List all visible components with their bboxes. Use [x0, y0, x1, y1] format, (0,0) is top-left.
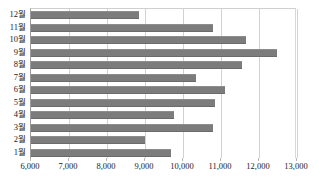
x-axis-tick	[220, 158, 221, 161]
bar-row	[31, 109, 297, 122]
bar-row	[31, 72, 297, 85]
bar	[31, 61, 242, 69]
bar-row	[31, 59, 297, 72]
y-axis-category-label: 5월	[14, 96, 26, 109]
x-axis-tick-label: 10,000	[170, 160, 193, 172]
bar-series	[31, 9, 295, 158]
y-axis-category-label: 8월	[14, 58, 26, 71]
y-axis-category-label: 3월	[14, 121, 26, 134]
x-axis-tick	[144, 158, 145, 161]
bar-row	[31, 134, 297, 147]
bar-row	[31, 22, 297, 35]
bar	[31, 11, 139, 19]
bar-row	[31, 84, 297, 97]
y-axis-category-label: 4월	[14, 108, 26, 121]
bar-row	[31, 9, 297, 22]
x-axis-tick	[106, 158, 107, 161]
bar	[31, 99, 215, 107]
bar	[31, 74, 196, 82]
x-axis-tick-label: 8,000	[96, 160, 115, 172]
bar-chart: 12월11월10월9월8월7월6월5월4월3월2월1월 6,0007,0008,…	[0, 0, 319, 183]
x-axis-tick	[30, 158, 31, 161]
chart-title-clipped	[40, 0, 280, 2]
bar	[31, 149, 171, 157]
x-axis-tick-label: 13,000	[284, 160, 307, 172]
x-axis-tick	[296, 158, 297, 161]
y-axis-category-label: 2월	[14, 133, 26, 146]
y-axis-category-label: 9월	[14, 46, 26, 59]
bar	[31, 24, 213, 32]
bar-row	[31, 47, 297, 60]
y-axis-category-label: 6월	[14, 83, 26, 96]
y-axis-category-label: 12월	[10, 8, 27, 21]
y-axis-category-label: 1월	[14, 146, 26, 159]
bar	[31, 86, 225, 94]
x-axis-tick-label: 7,000	[58, 160, 77, 172]
x-axis-tick-label: 6,000	[20, 160, 39, 172]
bar	[31, 111, 174, 119]
bar	[31, 124, 213, 132]
x-axis-tick-label: 11,000	[208, 160, 231, 172]
x-axis-value-labels: 6,0007,0008,0009,00010,00011,00012,00013…	[0, 160, 319, 174]
bar	[31, 136, 145, 144]
x-axis-tick-label: 12,000	[246, 160, 269, 172]
y-axis-category-label: 7월	[14, 71, 26, 84]
bar-row	[31, 97, 297, 110]
x-axis-tick	[68, 158, 69, 161]
gridline	[297, 9, 298, 158]
y-axis-category-labels: 12월11월10월9월8월7월6월5월4월3월2월1월	[0, 8, 28, 158]
x-axis-tick	[258, 158, 259, 161]
bar-row	[31, 122, 297, 135]
bar	[31, 36, 246, 44]
y-axis-category-label: 10월	[10, 33, 27, 46]
y-axis-category-label: 11월	[10, 21, 26, 34]
bar-row	[31, 34, 297, 47]
plot-area	[30, 8, 296, 158]
bar	[31, 49, 277, 57]
x-axis-tick	[182, 158, 183, 161]
x-axis-tick-label: 9,000	[134, 160, 153, 172]
